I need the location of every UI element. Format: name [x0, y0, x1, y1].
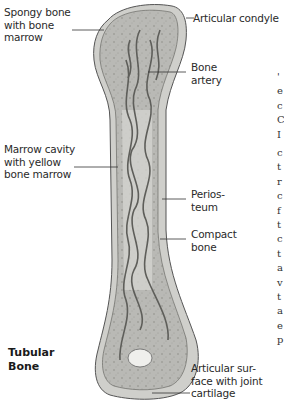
adjacent-text-top: ' e c C I [277, 70, 284, 142]
bone-illustration [0, 0, 284, 403]
joint-cartilage [128, 349, 152, 367]
label-articular-surface: Articular sur- face with joint cartilage [191, 362, 262, 400]
label-marrow-cavity: Marrow cavity with yellow bone marrow [4, 143, 75, 181]
label-periosteum: Perios- teum [191, 188, 225, 213]
label-spongy-bone: Spongy bone with bone marrow [4, 6, 71, 44]
label-compact-bone: Compact bone [191, 228, 237, 253]
label-articular-condyle: Articular condyle [193, 12, 279, 25]
adjacent-text-bottom: c t r c f t c t a v t a e p [277, 146, 283, 348]
label-bone-artery: Bone artery [191, 61, 222, 86]
figure-title: Tubular Bone [8, 346, 54, 373]
